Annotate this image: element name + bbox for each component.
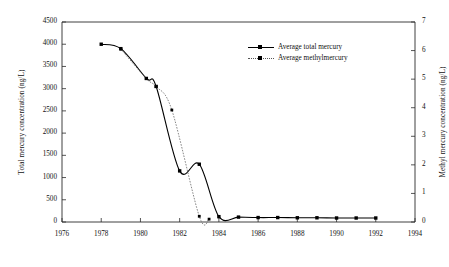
x-tick-label: 1982 <box>163 230 197 238</box>
x-tick-label: 1978 <box>84 230 118 238</box>
x-tick-label: 1988 <box>280 230 314 238</box>
x-tick-label: 1984 <box>202 230 236 238</box>
chart-figure: Total mercury concentration (ng/L) Methy… <box>0 0 449 267</box>
chart-legend: Average total mercury Average methylmerc… <box>248 42 348 64</box>
x-tick-label: 1976 <box>45 230 79 238</box>
y-tick-label-left: 2000 <box>22 128 57 136</box>
x-tick-label: 1986 <box>241 230 275 238</box>
right-axis-title: Methyl mercury concentration (ng/L) <box>439 42 447 202</box>
x-tick-label: 1994 <box>398 230 432 238</box>
y-tick-label-right: 3 <box>422 131 442 139</box>
y-tick-label-left: 4500 <box>22 17 57 25</box>
y-tick-label-left: 3500 <box>22 61 57 69</box>
legend-marker-methylmercury <box>248 54 274 63</box>
plot-frame <box>62 22 415 222</box>
legend-label-methylmercury: Average methylmercury <box>278 53 348 64</box>
legend-item-methylmercury: Average methylmercury <box>248 53 348 64</box>
y-tick-label-left: 1500 <box>22 150 57 158</box>
y-tick-label-left: 1000 <box>22 173 57 181</box>
plot-canvas <box>0 0 449 267</box>
y-tick-label-right: 0 <box>422 217 442 225</box>
y-tick-label-left: 500 <box>22 195 57 203</box>
legend-marker-total-mercury <box>248 43 274 52</box>
series-methylmercury <box>119 48 210 225</box>
x-tick-label: 1990 <box>320 230 354 238</box>
y-tick-label-right: 6 <box>422 46 442 54</box>
y-tick-label-left: 0 <box>22 217 57 225</box>
series-total-mercury <box>100 43 378 221</box>
x-tick-label: 1992 <box>359 230 393 238</box>
y-tick-label-right: 7 <box>422 17 442 25</box>
y-tick-label-right: 2 <box>422 160 442 168</box>
y-tick-label-left: 2500 <box>22 106 57 114</box>
y-tick-label-left: 3000 <box>22 84 57 92</box>
y-tick-label-left: 4000 <box>22 39 57 47</box>
y-tick-label-right: 4 <box>422 103 442 111</box>
legend-label-total-mercury: Average total mercury <box>278 42 342 53</box>
axis-tick-marks <box>62 22 415 222</box>
x-tick-label: 1980 <box>123 230 157 238</box>
legend-item-total-mercury: Average total mercury <box>248 42 348 53</box>
data-series-layer <box>100 43 378 226</box>
y-tick-label-right: 5 <box>422 74 442 82</box>
y-tick-label-right: 1 <box>422 188 442 196</box>
